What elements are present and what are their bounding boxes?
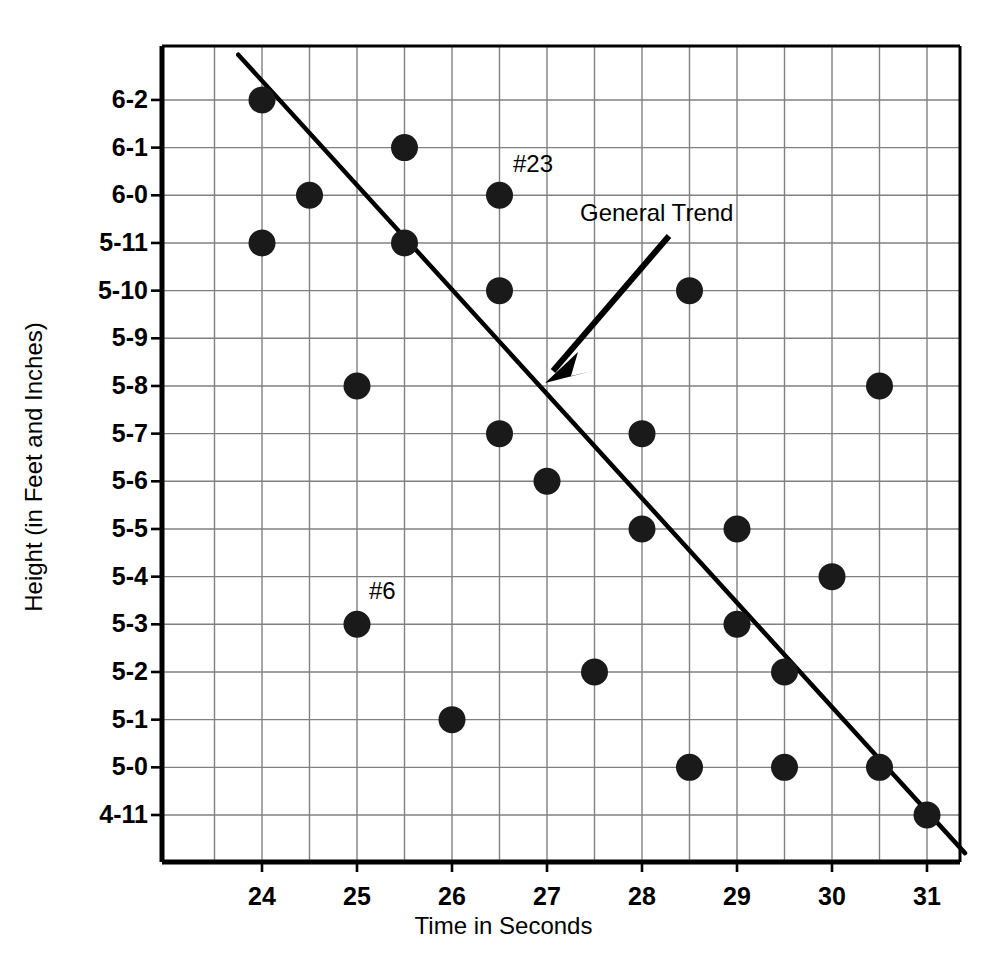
x-axis-tick-label: 27 xyxy=(497,884,597,909)
x-axis-tick-label: 30 xyxy=(782,884,882,909)
annotation-label-general-trend: General Trend xyxy=(580,201,733,225)
trend-arrow-icon xyxy=(545,236,669,383)
y-axis-tick-label: 5-10 xyxy=(40,278,148,303)
data-point xyxy=(866,754,893,781)
data-point xyxy=(676,277,703,304)
data-point xyxy=(819,563,846,590)
x-axis-tick-label: 24 xyxy=(212,884,312,909)
data-point xyxy=(724,515,751,542)
vertical-gridlines xyxy=(215,46,928,862)
data-point xyxy=(391,229,418,256)
data-point xyxy=(249,86,276,113)
data-point xyxy=(344,611,371,638)
y-axis-tick-label: 6-2 xyxy=(40,87,148,112)
data-point xyxy=(914,802,941,829)
y-axis-tick-label: 5-0 xyxy=(40,754,148,779)
trend-line xyxy=(238,55,965,853)
data-point xyxy=(676,754,703,781)
general-trend-line xyxy=(238,55,965,853)
y-axis-tick-label: 4-11 xyxy=(40,802,148,827)
y-axis-tick-label: 5-1 xyxy=(40,707,148,732)
x-axis-tick-label: 26 xyxy=(402,884,502,909)
data-point xyxy=(296,182,323,209)
y-axis-tick-label: 5-3 xyxy=(40,611,148,636)
y-axis-tick-label: 6-0 xyxy=(40,182,148,207)
x-axis-tick-label: 31 xyxy=(877,884,977,909)
data-point xyxy=(344,372,371,399)
x-axis-title: Time in Seconds xyxy=(0,914,1007,938)
annotation-label-23: #23 xyxy=(513,152,553,176)
y-axis-title: Height (in Feet and Inches) xyxy=(22,257,46,677)
axis-frame xyxy=(162,46,960,862)
data-point xyxy=(866,372,893,399)
data-point xyxy=(486,420,513,447)
data-point xyxy=(534,468,561,495)
y-axis-tick-label: 5-9 xyxy=(40,325,148,350)
y-axis-tick-label: 6-1 xyxy=(40,135,148,160)
y-axis-tick-label: 5-6 xyxy=(40,468,148,493)
data-point xyxy=(724,611,751,638)
y-axis-tick-label: 5-8 xyxy=(40,373,148,398)
annotation-label-6: #6 xyxy=(369,579,396,603)
data-point xyxy=(249,229,276,256)
scatter-chart: 6-26-16-05-115-105-95-85-75-65-55-45-35-… xyxy=(0,0,1007,975)
data-point xyxy=(629,420,656,447)
x-axis-tick-label: 29 xyxy=(687,884,787,909)
y-axis-tick-label: 5-11 xyxy=(40,230,148,255)
data-point xyxy=(771,754,798,781)
y-axis-tick-label: 5-5 xyxy=(40,516,148,541)
x-axis-tick-label: 28 xyxy=(592,884,692,909)
x-axis-tick-label: 25 xyxy=(307,884,407,909)
y-axis-tick-label: 5-2 xyxy=(40,659,148,684)
horizontal-gridlines xyxy=(162,100,960,815)
y-axis-tick-label: 5-7 xyxy=(40,421,148,446)
data-point xyxy=(439,706,466,733)
data-point xyxy=(771,658,798,685)
data-point xyxy=(391,134,418,161)
y-axis-tick-label: 5-4 xyxy=(40,564,148,589)
plot-area xyxy=(0,0,1007,975)
trend-arrow-shaft xyxy=(553,236,669,371)
data-point xyxy=(486,277,513,304)
data-point xyxy=(629,515,656,542)
data-point xyxy=(581,658,608,685)
data-point xyxy=(486,182,513,209)
